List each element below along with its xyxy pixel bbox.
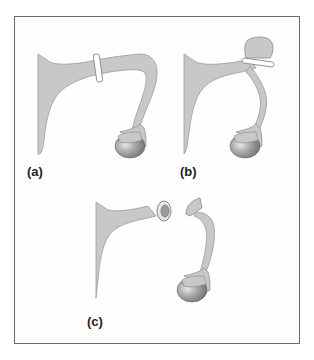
panel-a-band — [93, 54, 103, 83]
panel-b-forearm — [246, 66, 267, 128]
panel-a-illustration — [38, 54, 157, 158]
panel-c-forearm — [194, 212, 215, 272]
panel-a-label: (a) — [27, 164, 43, 179]
panel-b-bulb — [245, 37, 273, 58]
panel-c-ring-inner — [161, 205, 169, 217]
panel-c-label: (c) — [87, 314, 103, 329]
panel-b-illustration — [184, 37, 274, 158]
panel-c-illustration — [96, 198, 215, 302]
panel-c-stump — [96, 202, 156, 298]
panel-b-label: (b) — [180, 164, 197, 179]
diagram-svg — [0, 0, 314, 360]
